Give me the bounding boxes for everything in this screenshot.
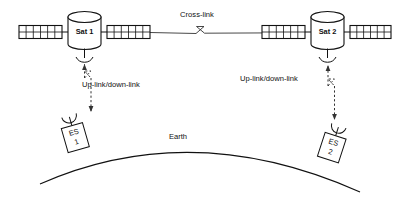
sat-1-label: Sat 1 (76, 27, 94, 36)
sat-2-solar-panel-right (350, 26, 391, 39)
uplink-downlink-left-label: Up-link/down-link (82, 80, 140, 89)
earth-label: Earth (169, 132, 187, 141)
satellite-link-diagram: Earth Cross-link (0, 0, 393, 209)
cross-link-label: Cross-link (180, 10, 214, 19)
sat-2-label: Sat 2 (319, 27, 337, 36)
sat-2-solar-panel-left (262, 26, 305, 39)
diagram-canvas: Earth Cross-link (0, 0, 393, 209)
sat-1-solar-panel-right (107, 26, 150, 39)
sat-1-solar-panel-left (19, 26, 62, 39)
uplink-downlink-right-label: Up-link/down-link (240, 74, 298, 83)
